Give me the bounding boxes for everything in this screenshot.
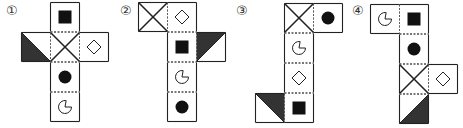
filled-circle-icon	[176, 101, 189, 114]
filled-circle-icon	[408, 43, 421, 56]
face-pie	[51, 93, 80, 122]
face-diamond	[429, 65, 458, 94]
face-triangle	[256, 94, 285, 123]
net-option-2	[139, 3, 226, 122]
face-x-cross	[51, 33, 80, 62]
filled-circle-icon	[322, 12, 335, 25]
pie-icon	[293, 41, 306, 54]
face-triangle	[22, 33, 51, 62]
face-diamond	[80, 33, 109, 62]
diamond-icon	[87, 40, 101, 54]
cube-net-figure: ① ② ③ ④	[0, 0, 463, 128]
diamond-icon	[175, 10, 189, 24]
face-filled-square	[168, 33, 197, 62]
filled-square-icon	[293, 102, 306, 115]
face-filled-square	[285, 94, 314, 123]
face-pie	[168, 63, 197, 92]
face-filled-square	[51, 3, 80, 32]
filled-circle-icon	[59, 71, 72, 84]
face-filled-circle	[51, 63, 80, 92]
filled-square-icon	[408, 13, 421, 26]
face-filled-circle	[400, 35, 429, 64]
face-pie	[285, 34, 314, 63]
pie-icon	[58, 100, 71, 113]
face-triangle	[400, 95, 429, 124]
diamond-icon	[292, 71, 306, 85]
face-x-cross	[285, 4, 314, 33]
net-option-1	[22, 3, 109, 122]
face-diamond	[168, 3, 197, 32]
face-filled-circle	[314, 4, 343, 33]
face-filled-circle	[168, 93, 197, 122]
face-filled-square	[400, 5, 429, 34]
pie-icon	[176, 71, 189, 84]
face-diamond	[285, 64, 314, 93]
filled-square-icon	[176, 41, 189, 54]
cube-nets-canvas	[0, 0, 463, 128]
pie-icon	[379, 12, 392, 25]
net-option-3	[256, 4, 343, 123]
filled-square-icon	[59, 11, 72, 24]
face-x-cross	[400, 65, 429, 94]
face-triangle	[197, 33, 226, 62]
net-option-4	[371, 5, 458, 124]
diamond-icon	[436, 72, 450, 86]
face-pie	[371, 5, 400, 34]
face-x-cross	[139, 3, 168, 32]
